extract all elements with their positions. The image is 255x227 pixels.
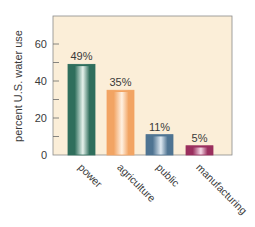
x-tick-label: agriculture bbox=[115, 161, 158, 204]
bar-agriculture bbox=[107, 90, 134, 155]
bar-public bbox=[146, 135, 173, 155]
data-label: 35% bbox=[109, 76, 131, 88]
y-tick-label: 60 bbox=[35, 38, 47, 50]
x-axis-labels: poweragriculturepublicmanufacturing bbox=[76, 161, 250, 217]
bar-power bbox=[68, 64, 95, 155]
bar-chart: 0204060 49%35%11%5% poweragriculturepubl… bbox=[0, 0, 255, 227]
data-label: 5% bbox=[192, 132, 208, 144]
y-tick-label: 0 bbox=[41, 149, 47, 161]
y-tick-label: 20 bbox=[35, 112, 47, 124]
x-tick-label: manufacturing bbox=[194, 161, 250, 217]
x-tick-label: public bbox=[154, 161, 182, 189]
y-tick-label: 40 bbox=[35, 75, 47, 87]
y-axis-title: percent U.S. water use bbox=[12, 30, 24, 142]
data-label: 11% bbox=[149, 121, 170, 133]
data-label: 49% bbox=[70, 50, 92, 62]
x-tick-label: power bbox=[76, 161, 105, 190]
